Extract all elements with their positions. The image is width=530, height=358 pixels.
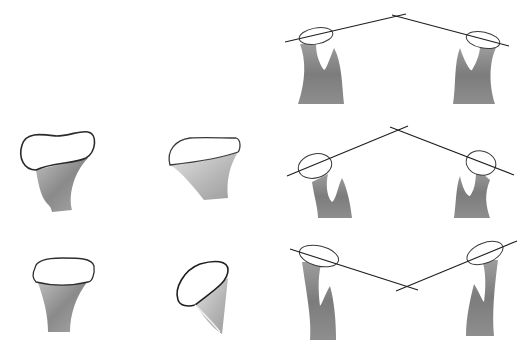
bone-view-row2-col2 — [169, 138, 240, 200]
section-pair-row2 — [287, 126, 514, 218]
bone-view-row3-col1 — [33, 258, 94, 332]
angle-line — [390, 127, 514, 175]
section-pair-row1 — [285, 14, 509, 104]
section-right-row1 — [453, 29, 501, 104]
angle-line — [285, 14, 406, 42]
figure-canvas — [0, 0, 530, 358]
angle-line — [392, 15, 509, 46]
angle-line — [396, 241, 517, 291]
section-left-row3 — [297, 241, 341, 340]
section-right-row3 — [464, 237, 507, 336]
section-left-row2 — [295, 150, 352, 218]
bone-view-row3-col2 — [177, 262, 228, 334]
figure-svg — [0, 0, 530, 358]
section-right-row2 — [454, 148, 499, 218]
angle-line — [287, 126, 408, 176]
section-pair-row3 — [290, 237, 517, 340]
bone-view-row2-col1 — [21, 132, 95, 212]
